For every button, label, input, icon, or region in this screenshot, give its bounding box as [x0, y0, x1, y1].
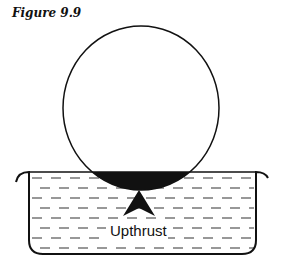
floating-ball — [63, 26, 219, 190]
upthrust-label: Upthrust — [110, 222, 168, 239]
submerged-region — [63, 26, 219, 190]
upthrust-arrow-icon — [123, 190, 155, 216]
buoyancy-diagram: Upthrust — [0, 0, 281, 267]
